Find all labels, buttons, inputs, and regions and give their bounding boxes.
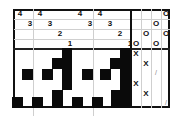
o-mark[interactable]: O [151,39,161,49]
o-mark[interactable]: O [161,29,171,39]
slash-mark[interactable]: / [151,68,161,78]
o-mark[interactable]: O [141,29,151,39]
x-mark[interactable]: X [131,49,141,59]
clue-number: 1 [65,39,75,49]
clue-number: 3 [85,19,95,29]
filled-cell[interactable] [22,69,33,80]
filled-cell[interactable] [62,58,72,90]
filled-cell[interactable] [32,97,43,108]
clue-number: 2 [55,29,65,39]
clue-number: 4 [15,9,25,19]
o-mark[interactable]: O [131,39,141,49]
x-mark[interactable]: X [131,79,141,89]
clue-number: 3 [105,19,115,29]
x-mark[interactable]: X [141,59,151,69]
clue-number: 3 [45,19,55,29]
clue-number: 4 [75,9,85,19]
clue-number: 4 [35,9,45,19]
clue-row-divider [14,29,131,30]
clue-number: 2 [115,29,125,39]
filled-cell[interactable] [100,69,111,80]
clue-number: 3 [25,19,35,29]
filled-cell[interactable] [82,69,93,80]
filled-cell[interactable] [111,90,122,108]
x-mark[interactable]: X [141,89,151,99]
filled-cell[interactable] [72,97,83,108]
grid-col-line [161,9,162,108]
o-mark[interactable]: O [151,19,161,29]
o-mark[interactable]: O [161,9,171,19]
clue-number: 4 [95,9,105,19]
slash-mark[interactable]: / [161,98,171,108]
filled-cell[interactable] [42,69,53,80]
filled-cell[interactable] [92,97,103,108]
filled-cell[interactable] [52,90,63,108]
filled-cell[interactable] [12,97,23,108]
